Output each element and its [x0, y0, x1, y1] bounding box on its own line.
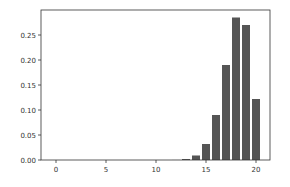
y-tick-label: 0.00 — [20, 157, 36, 165]
y-tick-label: 0.10 — [20, 107, 36, 115]
bars-group — [172, 18, 260, 161]
y-axis: 0.000.050.100.150.200.25 — [20, 32, 41, 165]
bar — [252, 99, 260, 160]
x-axis: 05101520 — [54, 160, 261, 174]
bar — [192, 156, 200, 161]
bar — [222, 65, 230, 160]
x-tick-label: 10 — [152, 166, 161, 174]
x-tick-label: 0 — [54, 166, 58, 174]
y-tick-label: 0.25 — [20, 32, 36, 40]
bar — [202, 144, 210, 160]
bar — [212, 115, 220, 160]
x-tick-label: 20 — [252, 166, 261, 174]
y-tick-label: 0.05 — [20, 132, 36, 140]
x-tick-label: 15 — [202, 166, 211, 174]
x-tick-label: 5 — [104, 166, 108, 174]
y-tick-label: 0.15 — [20, 82, 36, 90]
bar-chart: 0.000.050.100.150.200.25 05101520 — [0, 0, 290, 187]
y-tick-label: 0.20 — [20, 57, 36, 65]
bar — [232, 18, 240, 161]
bar — [242, 25, 250, 160]
